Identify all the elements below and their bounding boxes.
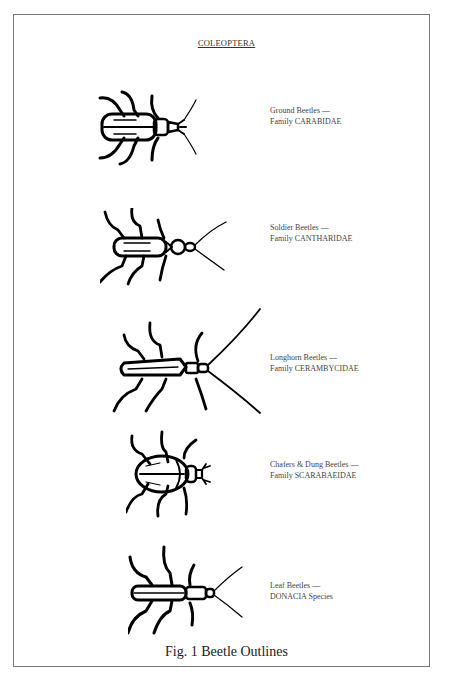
beetle-name: Chafers & Dung Beetles —: [270, 459, 358, 470]
beetle-family: DONACIA Species: [270, 591, 333, 602]
page-title: COLEOPTERA: [0, 38, 453, 48]
beetle-family: Family SCARABAEIDAE: [270, 470, 358, 481]
soldier-beetle-outline-icon: [100, 208, 240, 288]
beetle-caption-soldier: Soldier Beetles — Family CANTHARIDAE: [270, 222, 352, 244]
beetle-caption-leaf: Leaf Beetles — DONACIA Species: [270, 580, 333, 602]
longhorn-beetle-outline-icon: [110, 305, 270, 415]
figure-caption: Fig. 1 Beetle Outlines: [0, 644, 453, 660]
beetle-family: Family CARABIDAE: [270, 116, 341, 127]
beetle-family: Family CANTHARIDAE: [270, 233, 352, 244]
beetle-caption-longhorn: Longhorn Beetles — Family CERAMBYCIDAE: [270, 352, 359, 374]
beetle-name: Longhorn Beetles —: [270, 352, 359, 363]
beetle-name: Ground Beetles —: [270, 105, 341, 116]
beetle-name: Soldier Beetles —: [270, 222, 352, 233]
beetle-name: Leaf Beetles —: [270, 580, 333, 591]
ground-beetle-outline-icon: [92, 88, 202, 168]
chafer-beetle-outline-icon: [126, 430, 226, 520]
beetle-caption-ground: Ground Beetles — Family CARABIDAE: [270, 105, 341, 127]
beetle-family: Family CERAMBYCIDAE: [270, 363, 359, 374]
beetle-caption-chafer: Chafers & Dung Beetles — Family SCARABAE…: [270, 459, 358, 481]
leaf-beetle-outline-icon: [128, 545, 248, 635]
